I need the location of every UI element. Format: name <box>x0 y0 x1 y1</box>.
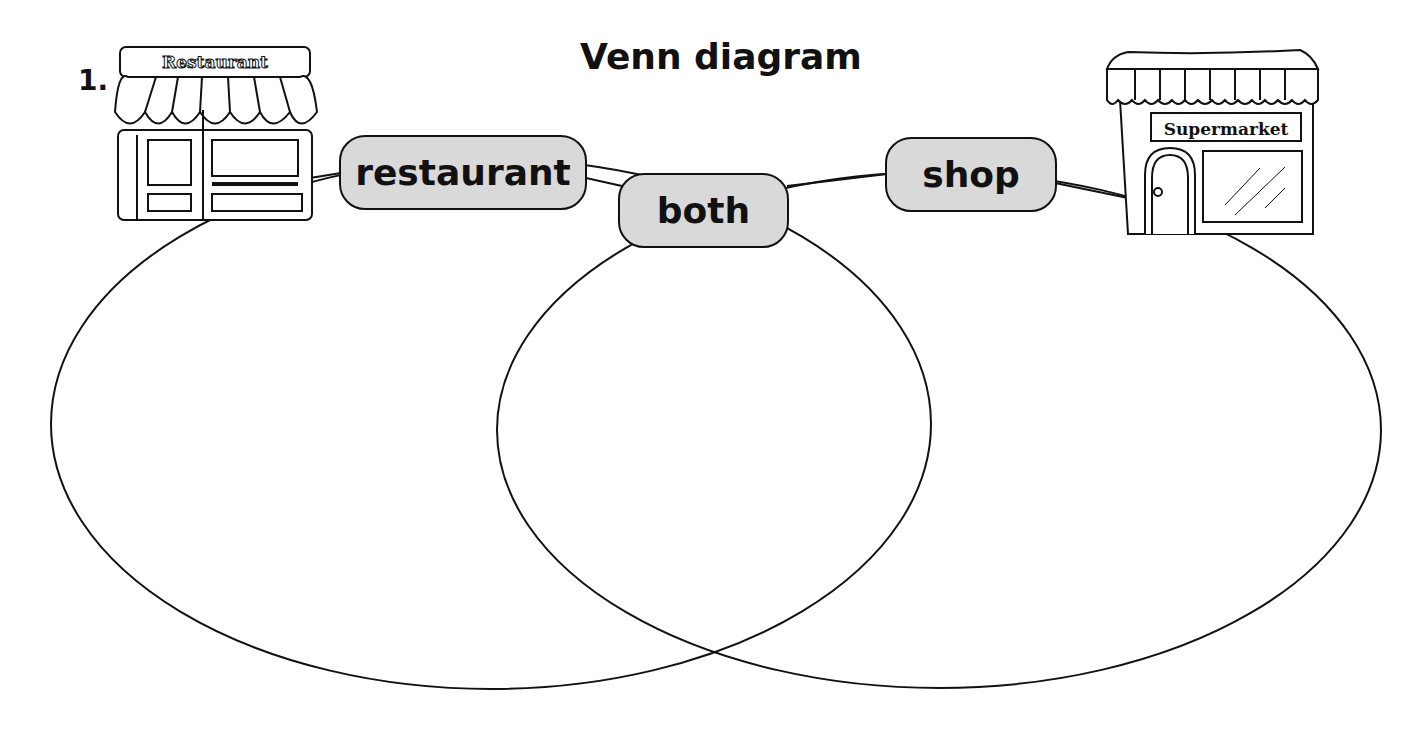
restaurant-building-icon <box>115 47 317 220</box>
page-title: Venn diagram <box>580 36 862 77</box>
label-shop: shop <box>885 137 1057 212</box>
venn-circle-shop <box>497 172 1381 688</box>
supermarket-building-icon <box>1107 50 1318 234</box>
connector-right <box>1055 183 1128 198</box>
label-restaurant: restaurant <box>339 135 587 210</box>
venn-circle-restaurant <box>51 159 931 689</box>
exercise-number: 1. <box>78 64 108 97</box>
restaurant-sign: Restaurant <box>162 52 268 72</box>
supermarket-sign: Supermarket <box>1164 119 1289 139</box>
label-both: both <box>618 173 789 248</box>
venn-drawing: Restaurant Supermarket <box>0 0 1425 732</box>
connector-rest-both <box>586 178 622 186</box>
